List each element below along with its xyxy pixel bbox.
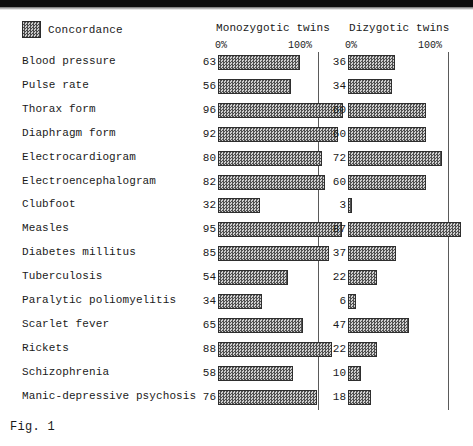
bar-value-dz: 34 bbox=[322, 80, 346, 92]
concordance-swatch-icon bbox=[22, 21, 41, 38]
bar-value-dz: 37 bbox=[322, 247, 346, 259]
chart-row: Paralytic poliomyelitis346 bbox=[0, 291, 473, 315]
bar-dz bbox=[348, 198, 352, 213]
chart-row: Schizophrenia5810 bbox=[0, 363, 473, 387]
category-label: Electrocardiogram bbox=[22, 151, 136, 163]
axis-label-dizygotic-min: 0% bbox=[345, 40, 357, 51]
bar-mz bbox=[218, 127, 338, 142]
bar-mz bbox=[218, 318, 303, 333]
bar-value-mz: 92 bbox=[192, 128, 216, 140]
category-label: Electroencephalogram bbox=[22, 175, 156, 187]
bar-dz bbox=[348, 342, 377, 357]
chart-row: Electrocardiogram8072 bbox=[0, 148, 473, 172]
bar-value-dz: 36 bbox=[322, 56, 346, 68]
category-label: Scarlet fever bbox=[22, 318, 109, 330]
bar-value-dz: 22 bbox=[322, 343, 346, 355]
category-label: Clubfoot bbox=[22, 198, 76, 210]
bar-value-mz: 65 bbox=[192, 319, 216, 331]
bar-value-mz: 63 bbox=[192, 56, 216, 68]
legend-label: Concordance bbox=[48, 24, 123, 36]
bar-mz bbox=[218, 366, 293, 381]
chart-row: Clubfoot323 bbox=[0, 195, 473, 219]
bar-dz bbox=[348, 55, 395, 70]
bar-value-dz: 18 bbox=[322, 391, 346, 403]
chart-row: Scarlet fever6547 bbox=[0, 315, 473, 339]
bar-value-mz: 82 bbox=[192, 176, 216, 188]
bar-value-mz: 58 bbox=[192, 367, 216, 379]
bar-dz bbox=[348, 366, 361, 381]
bar-dz bbox=[348, 270, 377, 285]
bar-dz bbox=[348, 151, 442, 166]
bar-dz bbox=[348, 127, 426, 142]
bar-dz bbox=[348, 294, 356, 309]
bar-dz bbox=[348, 318, 409, 333]
chart-row: Pulse rate5634 bbox=[0, 76, 473, 100]
category-label: Blood pressure bbox=[22, 55, 116, 67]
category-label: Diaphragm form bbox=[22, 127, 116, 139]
category-label: Tuberculosis bbox=[22, 270, 102, 282]
bar-value-mz: 85 bbox=[192, 247, 216, 259]
chart-row: Measles9587 bbox=[0, 219, 473, 243]
bar-dz bbox=[348, 390, 371, 405]
bar-dz bbox=[348, 175, 426, 190]
column-header-dizygotic: Dizygotic twins bbox=[349, 22, 450, 34]
category-label: Manic-depressive psychosis bbox=[22, 390, 196, 402]
bar-value-dz: 6 bbox=[322, 295, 346, 307]
category-label: Paralytic poliomyelitis bbox=[22, 294, 176, 306]
axis-label-monozygotic-min: 0% bbox=[215, 40, 227, 51]
bar-value-mz: 95 bbox=[192, 223, 216, 235]
category-label: Rickets bbox=[22, 342, 69, 354]
bar-value-mz: 80 bbox=[192, 152, 216, 164]
figure-caption: Fig. 1 bbox=[10, 420, 55, 434]
bar-value-dz: 60 bbox=[322, 104, 346, 116]
bar-mz bbox=[218, 270, 288, 285]
chart-row: Electroencephalogram8260 bbox=[0, 172, 473, 196]
bar-value-mz: 88 bbox=[192, 343, 216, 355]
bar-value-mz: 96 bbox=[192, 104, 216, 116]
bar-dz bbox=[348, 222, 461, 237]
bar-mz bbox=[218, 79, 291, 94]
category-label: Schizophrenia bbox=[22, 366, 109, 378]
category-label: Thorax form bbox=[22, 103, 96, 115]
chart-row: Blood pressure6336 bbox=[0, 52, 473, 76]
bar-value-dz: 60 bbox=[322, 176, 346, 188]
bar-value-mz: 54 bbox=[192, 271, 216, 283]
bar-value-dz: 10 bbox=[322, 367, 346, 379]
bar-dz bbox=[348, 103, 426, 118]
axis-label-dizygotic-max: 100% bbox=[418, 40, 442, 51]
chart-row: Thorax form9660 bbox=[0, 100, 473, 124]
category-label: Diabetes millitus bbox=[22, 246, 136, 258]
chart-row: Tuberculosis5422 bbox=[0, 267, 473, 291]
bar-mz bbox=[218, 175, 325, 190]
bar-mz bbox=[218, 342, 332, 357]
category-label: Measles bbox=[22, 222, 69, 234]
bar-dz bbox=[348, 246, 396, 261]
bar-mz bbox=[218, 55, 300, 70]
bar-value-mz: 76 bbox=[192, 391, 216, 403]
chart-row: Diaphragm form9260 bbox=[0, 124, 473, 148]
bar-value-mz: 34 bbox=[192, 295, 216, 307]
column-header-monozygotic: Monozygotic twins bbox=[216, 22, 330, 34]
bar-mz bbox=[218, 151, 322, 166]
chart-row: Manic-depressive psychosis7618 bbox=[0, 387, 473, 411]
bar-mz bbox=[218, 198, 260, 213]
bar-value-dz: 87 bbox=[322, 223, 346, 235]
bar-value-mz: 56 bbox=[192, 80, 216, 92]
bar-mz bbox=[218, 246, 329, 261]
chart-row: Diabetes millitus8537 bbox=[0, 243, 473, 267]
bar-value-dz: 22 bbox=[322, 271, 346, 283]
bar-value-dz: 47 bbox=[322, 319, 346, 331]
bar-value-dz: 3 bbox=[322, 199, 346, 211]
axis-label-monozygotic-max: 100% bbox=[288, 40, 312, 51]
bar-value-dz: 60 bbox=[322, 128, 346, 140]
bar-dz bbox=[348, 79, 392, 94]
bar-value-dz: 72 bbox=[322, 152, 346, 164]
concordance-bar-chart: Concordance Monozygotic twins Dizygotic … bbox=[0, 0, 473, 446]
bar-mz bbox=[218, 390, 317, 405]
chart-legend: Concordance bbox=[22, 21, 123, 38]
category-label: Pulse rate bbox=[22, 79, 89, 91]
bar-value-mz: 32 bbox=[192, 199, 216, 211]
bar-mz bbox=[218, 294, 262, 309]
chart-row: Rickets8822 bbox=[0, 339, 473, 363]
